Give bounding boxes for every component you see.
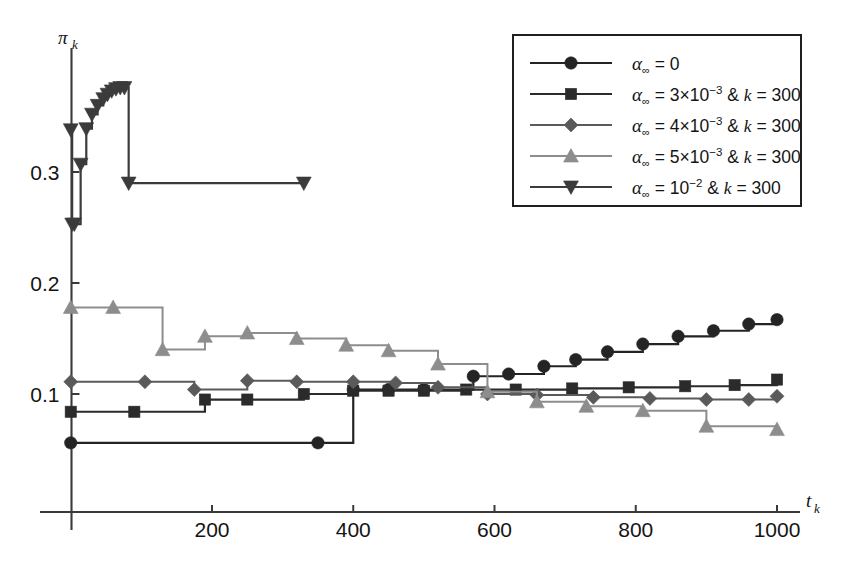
series-triangle-up bbox=[63, 300, 784, 436]
x-tick-label: 600 bbox=[477, 518, 512, 541]
data-point-marker bbox=[467, 370, 479, 382]
data-point-marker bbox=[570, 353, 582, 365]
data-point-marker bbox=[64, 375, 78, 389]
data-point-marker bbox=[418, 385, 429, 396]
data-point-marker bbox=[623, 382, 634, 393]
data-point-marker bbox=[65, 406, 76, 417]
data-point-marker bbox=[565, 57, 577, 69]
x-tick-label: 200 bbox=[194, 518, 229, 541]
series-line bbox=[71, 88, 304, 225]
y-axis-title-subscript: k bbox=[72, 37, 78, 52]
x-tick-label: 800 bbox=[618, 518, 653, 541]
data-point-marker bbox=[65, 437, 77, 449]
data-point-marker bbox=[707, 325, 719, 337]
data-point-marker bbox=[138, 375, 152, 389]
data-point-marker bbox=[729, 380, 740, 391]
data-point-marker bbox=[502, 368, 514, 380]
data-point-marker bbox=[637, 338, 649, 350]
x-tick-label: 400 bbox=[336, 518, 371, 541]
data-point-marker bbox=[771, 313, 783, 325]
data-point-marker bbox=[240, 374, 254, 388]
y-axis-title: π k bbox=[58, 27, 78, 52]
data-point-marker bbox=[129, 406, 140, 417]
x-axis-title-symbol: t bbox=[806, 490, 812, 511]
data-point-marker bbox=[770, 389, 784, 403]
legend-label: α∞ = 0 bbox=[632, 53, 680, 76]
chart-svg: π k t k 20040060080010000.10.20.3 α∞ = 0… bbox=[0, 0, 852, 563]
data-point-marker bbox=[742, 393, 756, 407]
data-point-marker bbox=[565, 88, 576, 99]
data-point-marker bbox=[771, 374, 782, 385]
data-point-marker bbox=[770, 422, 785, 435]
y-axis-title-symbol: π bbox=[58, 27, 68, 48]
data-point-marker bbox=[461, 384, 472, 395]
data-point-marker bbox=[312, 437, 324, 449]
data-point-marker bbox=[743, 318, 755, 330]
y-tick-label: 0.3 bbox=[30, 161, 59, 184]
data-point-marker bbox=[601, 346, 613, 358]
data-point-marker bbox=[567, 383, 578, 394]
data-point-marker bbox=[643, 391, 657, 405]
data-point-marker bbox=[242, 394, 253, 405]
series-triangle-down bbox=[63, 82, 311, 232]
data-point-marker bbox=[298, 388, 309, 399]
data-point-marker bbox=[672, 330, 684, 342]
chart-legend: α∞ = 0α∞ = 3×10−3 & k = 300α∞ = 4×10−3 &… bbox=[513, 35, 801, 206]
data-point-marker bbox=[199, 394, 210, 405]
x-axis-title: t k bbox=[806, 490, 820, 516]
data-point-marker bbox=[699, 393, 713, 407]
chart-figure: π k t k 20040060080010000.10.20.3 α∞ = 0… bbox=[0, 0, 852, 563]
x-axis-title-subscript: k bbox=[814, 501, 820, 516]
data-point-marker bbox=[63, 124, 78, 137]
data-point-marker bbox=[538, 360, 550, 372]
x-tick-label: 1000 bbox=[754, 518, 801, 541]
y-tick-label: 0.2 bbox=[30, 272, 59, 295]
data-point-marker bbox=[680, 381, 691, 392]
legend-label: α∞ = 10−2 & k = 300 bbox=[632, 177, 781, 200]
y-tick-label: 0.1 bbox=[30, 383, 59, 406]
data-point-marker bbox=[290, 375, 304, 389]
